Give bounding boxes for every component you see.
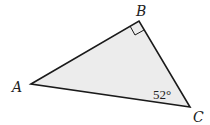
vertex-label-a: A bbox=[10, 79, 22, 95]
vertex-label-b: B bbox=[135, 3, 146, 19]
angle-c-label: 52° bbox=[153, 87, 171, 102]
vertex-label-c: C bbox=[193, 109, 204, 125]
triangle-diagram: A B C 52° bbox=[0, 0, 210, 125]
